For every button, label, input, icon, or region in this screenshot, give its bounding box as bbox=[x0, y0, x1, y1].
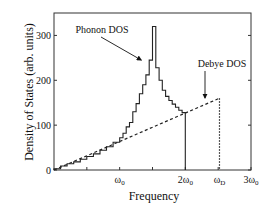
debye-dos-label: Debye DOS bbox=[198, 58, 247, 69]
series-layer bbox=[54, 27, 219, 171]
y-axis-title: Density of States (arb. units) bbox=[22, 23, 36, 161]
x-tick-label: ω0 bbox=[115, 174, 126, 187]
annotations-layer: Phonon DOSDebye DOS bbox=[75, 24, 246, 98]
y-tick-label: 200 bbox=[36, 75, 51, 86]
x-axis-title: Frequency bbox=[129, 189, 180, 203]
phonon-dos-label: Phonon DOS bbox=[75, 24, 128, 35]
y-axis-ticks: 0100200300 bbox=[36, 30, 251, 176]
debye-dos-line bbox=[54, 98, 219, 170]
y-tick-label: 0 bbox=[46, 165, 51, 176]
x-tick-label: 3ω0 bbox=[243, 174, 259, 187]
x-tick-label: ωD bbox=[214, 174, 226, 187]
y-tick-label: 300 bbox=[36, 30, 51, 41]
y-tick-label: 100 bbox=[36, 120, 51, 131]
x-tick-label: 2ω0 bbox=[178, 174, 194, 187]
phonon-dos-arrow bbox=[101, 37, 141, 60]
dos-chart: 0100200300 ω02ω0ωD3ω0 Phonon DOSDebye DO… bbox=[0, 0, 266, 209]
